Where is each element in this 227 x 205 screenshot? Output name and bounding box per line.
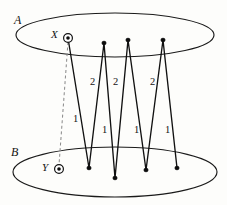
edge-label-1c: 1 <box>134 125 139 136</box>
vertex-dot-a1 <box>102 41 106 45</box>
edge-label-2b: 2 <box>113 77 118 88</box>
vertex-dot-b1 <box>87 166 91 170</box>
edge-label-1b: 1 <box>102 125 107 136</box>
figure-canvas <box>0 0 227 205</box>
point-x-core <box>66 36 70 40</box>
set-label-a: A <box>14 14 21 26</box>
point-x-marker <box>64 34 73 43</box>
point-label-x: X <box>51 29 58 40</box>
point-label-y: Y <box>42 162 48 173</box>
point-y-marker <box>55 165 64 174</box>
vertex-dot-b3 <box>144 168 148 172</box>
set-label-b: B <box>11 146 18 158</box>
vertex-dot-b4 <box>175 166 179 170</box>
figure-container: A B X Y 1 2 1 2 1 2 1 <box>0 0 227 205</box>
point-y-core <box>57 167 61 171</box>
edge-label-2c: 2 <box>150 77 155 88</box>
edge-label-1a: 1 <box>73 114 78 125</box>
dashed-edge-x-y <box>59 42 68 165</box>
vertex-dot-b2 <box>113 176 117 180</box>
vertex-dot-a2 <box>126 38 130 42</box>
edge-label-2a: 2 <box>90 77 95 88</box>
set-a-ellipse <box>16 13 214 57</box>
zigzag-path <box>68 38 177 178</box>
vertex-dot-a3 <box>161 38 165 42</box>
edge-label-1d: 1 <box>165 125 170 136</box>
